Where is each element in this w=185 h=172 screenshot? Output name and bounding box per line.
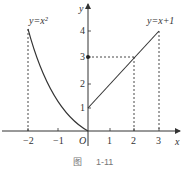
parabola-label: y=x²	[28, 15, 49, 26]
y-axis-label: y	[78, 3, 84, 14]
x-tick-label: 1	[107, 135, 112, 146]
point-0-3	[86, 55, 90, 59]
caption-number: 1-11	[96, 157, 113, 167]
function-graph: y=x² y=x+1 y x O −2 −1 1 2 3 1 2 3 4 图 1…	[0, 0, 185, 172]
x-tick-label: −2	[23, 135, 34, 146]
dashed-guides	[28, 29, 159, 131]
linear-label: y=x+1	[146, 15, 174, 26]
parabola-curve	[28, 29, 88, 131]
x-tick-label: −1	[53, 135, 64, 146]
y-tick-label: 4	[80, 25, 85, 36]
x-axis-label: x	[174, 136, 180, 147]
linear-line	[88, 31, 159, 108]
x-tick-label: 2	[131, 135, 136, 146]
y-tick-label: 2	[80, 78, 85, 89]
caption-prefix: 图	[73, 157, 82, 167]
x-tick-label: 3	[156, 135, 161, 146]
y-tick-label: 1	[80, 102, 85, 113]
y-tick-label: 3	[80, 51, 85, 62]
origin-label: O	[79, 135, 86, 146]
